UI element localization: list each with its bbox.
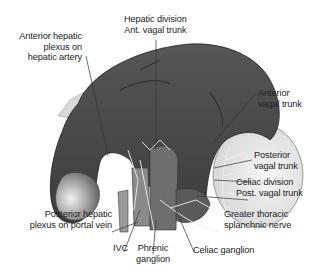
label-celiac-ganglion: Celiac ganglion xyxy=(193,245,254,256)
label-anterior-hepatic-plexus: Anterior hepatic plexus on hepatic arter… xyxy=(16,31,82,63)
label-ivc: IVC xyxy=(113,243,128,254)
label-anterior-vagal-trunk: Anterior vagal trunk xyxy=(258,88,302,109)
label-celiac-division: Celiac division Post. vagal trunk xyxy=(236,177,303,198)
label-greater-thoracic-splanchnic: Greater thoracic splanchnic nerve xyxy=(224,209,291,230)
label-hepatic-division: Hepatic division Ant. vagal trunk xyxy=(124,14,187,35)
diagram-canvas: Hepatic division Ant. vagal trunk Anteri… xyxy=(0,0,316,276)
label-posterior-vagal-trunk: Posterior vagal trunk xyxy=(254,150,298,171)
label-posterior-hepatic-plexus: Posterior hepatic plexus on portal vein xyxy=(26,209,112,230)
label-phrenic-ganglion: Phrenic ganglion xyxy=(136,243,170,264)
